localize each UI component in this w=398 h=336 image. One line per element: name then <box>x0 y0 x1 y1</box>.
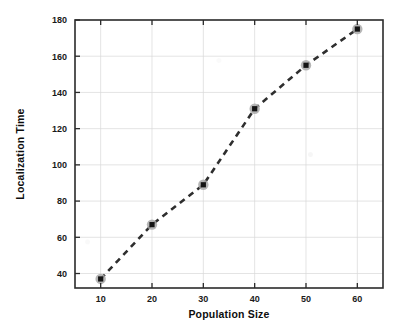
y-tick-label: 60 <box>57 233 67 243</box>
y-axis-title: Localization Time <box>14 108 26 199</box>
marker-point <box>98 276 103 281</box>
x-tick-label: 40 <box>250 294 260 304</box>
x-tick-label: 50 <box>301 294 311 304</box>
marker-point <box>303 63 308 68</box>
chart-figure: 406080100120140160180 102030405060 Popul… <box>0 0 398 336</box>
marker-point <box>252 106 257 111</box>
scatter-plot-svg: 406080100120140160180 102030405060 Popul… <box>0 0 398 336</box>
y-tick-label: 160 <box>52 52 67 62</box>
x-tick-label: 30 <box>198 294 208 304</box>
x-tick-label: 20 <box>147 294 157 304</box>
y-tick-label: 80 <box>57 196 67 206</box>
marker-point <box>149 222 154 227</box>
x-tick-label: 60 <box>352 294 362 304</box>
x-tick-label: 10 <box>96 294 106 304</box>
marker-point <box>355 26 360 31</box>
x-axis-title: Population Size <box>188 308 269 320</box>
y-tick-label: 120 <box>52 124 67 134</box>
y-tick-label: 140 <box>52 88 67 98</box>
y-tick-label: 180 <box>52 15 67 25</box>
plot-area-background <box>75 20 383 288</box>
y-tick-label: 100 <box>52 160 67 170</box>
marker-point <box>201 182 206 187</box>
y-tick-label: 40 <box>57 269 67 279</box>
